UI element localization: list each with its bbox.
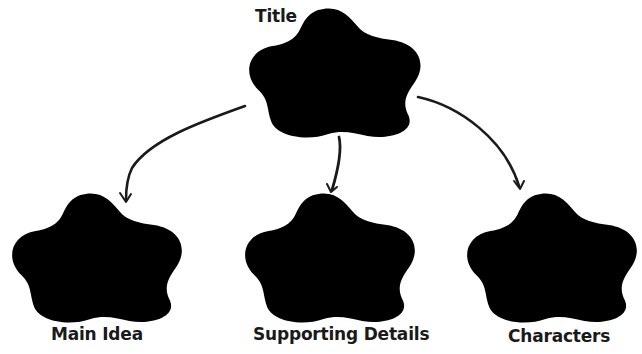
arrow-to-characters xyxy=(418,97,524,189)
title-label: Title xyxy=(255,6,297,26)
characters-cloud xyxy=(467,193,637,322)
graphic-organizer: Title Main Idea Supporting Details Chara… xyxy=(0,0,642,354)
supporting-details-label: Supporting Details xyxy=(253,324,429,344)
main-idea-cloud xyxy=(12,193,182,322)
arrow-to-main-idea xyxy=(120,106,245,202)
title-cloud xyxy=(249,8,420,137)
main-idea-label: Main Idea xyxy=(51,324,143,344)
arrow-to-supporting-details xyxy=(327,137,340,192)
characters-label: Characters xyxy=(508,326,610,346)
supporting-details-cloud xyxy=(245,193,415,322)
